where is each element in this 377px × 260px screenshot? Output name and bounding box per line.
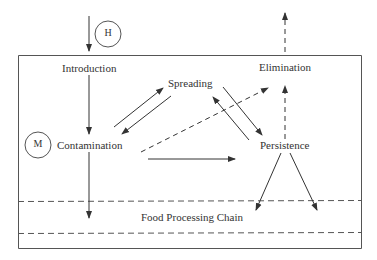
fpc-band-top xyxy=(18,201,361,202)
node-food-processing-chain: Food Processing Chain xyxy=(141,211,243,223)
node-elimination: Elimination xyxy=(259,61,311,73)
fpc-band-bottom xyxy=(18,233,361,234)
node-introduction: Introduction xyxy=(62,62,116,74)
node-persistence: Persistence xyxy=(260,139,309,151)
arrow-persistence-to-fpc-right xyxy=(290,153,317,210)
node-spreading: Spreading xyxy=(168,77,213,89)
arrow-persistence-to-fpc-left xyxy=(256,153,281,210)
arrow-contamination-to-elimination xyxy=(141,88,268,152)
h-marker-label: H xyxy=(101,27,115,38)
arrow-persistence-to-spreading xyxy=(213,97,249,140)
node-contamination: Contamination xyxy=(57,139,122,151)
m-marker-label: M xyxy=(31,138,45,149)
